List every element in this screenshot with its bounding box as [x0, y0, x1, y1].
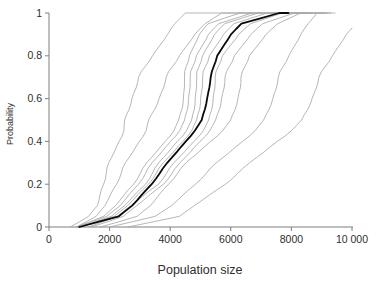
curve-replicate-8: [91, 13, 335, 227]
curve-replicate-2: [76, 13, 261, 227]
curve-replicate-9: [101, 13, 310, 227]
x-tick-label-4: 8000: [280, 233, 304, 245]
x-tick-label-0: 0: [46, 233, 52, 245]
y-tick-label-0: 0: [36, 221, 42, 233]
y-tick-label-4: 0.8: [27, 49, 42, 61]
cdf-chart-svg: 0200040006000800010 00000.20.40.60.81 Po…: [0, 0, 381, 288]
curve-replicate-3: [76, 13, 285, 227]
cdf-chart: 0200040006000800010 00000.20.40.60.81 Po…: [0, 0, 381, 288]
x-tick-label-3: 6000: [219, 233, 243, 245]
y-tick-label-3: 0.6: [27, 92, 42, 104]
x-tick-label-1: 2000: [98, 233, 122, 245]
curves: [70, 13, 352, 227]
x-tick-label-5: 10 000: [336, 233, 368, 245]
y-tick-label-5: 1: [36, 7, 42, 19]
curve-replicate-5: [79, 13, 315, 227]
x-tick-label-2: 4000: [159, 233, 183, 245]
y-tick-label-1: 0.2: [27, 178, 42, 190]
x-axis-title: Population size: [158, 263, 243, 277]
curve-replicate-11: [128, 28, 352, 227]
y-tick-label-2: 0.4: [27, 135, 42, 147]
curve-replicate-4: [78, 13, 301, 227]
y-axis-title: Probability: [5, 102, 15, 145]
